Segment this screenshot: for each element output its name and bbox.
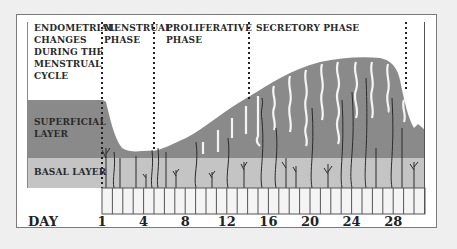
phase-label-line: PHASE [166, 34, 252, 46]
layer-label-line: BASAL LAYER [34, 166, 106, 178]
day-tick-label: 12 [218, 214, 236, 229]
title-line: CHANGES [34, 34, 104, 46]
layer-label-line: LAYER [34, 128, 106, 140]
day-tick-label: 8 [181, 214, 190, 229]
day-tick-label: 24 [343, 214, 361, 229]
phase-label-line: MENSTRUAL [104, 22, 172, 34]
day-tick-label: 1 [97, 214, 106, 229]
layer-label-line: SUPERFICIAL [34, 116, 106, 128]
layer-label-basal: BASAL LAYER [34, 166, 106, 178]
title-line: DURING THE [34, 46, 104, 58]
phase-label-line: PROLIFERATIVE [166, 22, 252, 34]
phase-label-line: SECRETORY PHASE [256, 22, 359, 34]
title-line: ENDOMETRIAL [34, 22, 104, 34]
phase-label-secretory: SECRETORY PHASE [256, 22, 359, 34]
day-tick-label: 16 [259, 214, 277, 229]
title-line: MENSTRUAL [34, 58, 104, 70]
day-tick-label: 20 [301, 214, 319, 229]
layer-label-superficial: SUPERFICIAL LAYER [34, 116, 106, 140]
superficial-layer-profile [103, 57, 425, 158]
left-rule [27, 22, 28, 188]
day-tick-label: 28 [384, 214, 402, 229]
phase-label-menstrual: MENSTRUAL PHASE [104, 22, 172, 46]
day-bar [102, 188, 425, 214]
phase-label-line: PHASE [104, 34, 172, 46]
axis-label-day: DAY [28, 214, 58, 229]
right-rule [424, 22, 425, 214]
title-line: CYCLE [34, 70, 104, 82]
phase-label-proliferative: PROLIFERATIVE PHASE [166, 22, 252, 46]
diagram-title: ENDOMETRIAL CHANGES DURING THE MENSTRUAL… [34, 22, 104, 82]
day-tick-label: 4 [139, 214, 148, 229]
